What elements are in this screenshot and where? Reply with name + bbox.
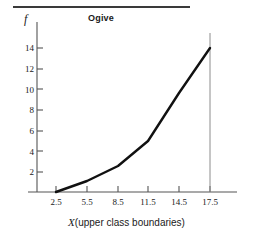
x-axis-caption: X(upper class boundaries) (0, 216, 253, 228)
figure-container: Ogive f 14 12 10 8 6 4 2 2.5 5.5 8.5 11.… (0, 0, 253, 240)
y-tick-marks (37, 48, 43, 172)
plot-area (0, 0, 253, 240)
x-axis-caption-variable: X (68, 216, 75, 228)
x-tick-marks (56, 186, 210, 192)
x-axis-caption-text: (upper class boundaries) (75, 217, 185, 228)
ogive-line (56, 48, 210, 192)
